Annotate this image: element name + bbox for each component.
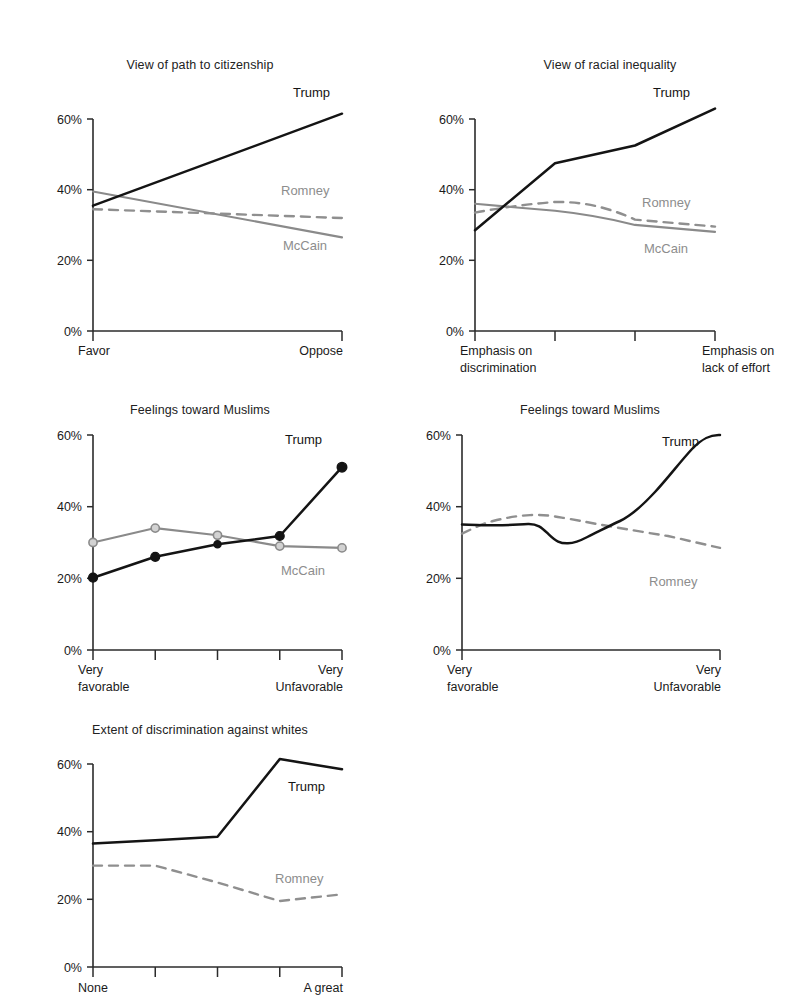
x-tick-label-left-line2: favorable (78, 680, 129, 694)
y-tick-label-60: 60% (439, 113, 464, 127)
series-label-romney: Romney (642, 195, 691, 210)
y-tick-label-40: 40% (57, 825, 82, 839)
chart-panel-view-of-path-to-citizenship: View of path to citizenship 60% 40% 20% … (0, 0, 400, 395)
series-label-trump: Trump (293, 85, 330, 100)
series-line-trump (93, 759, 342, 844)
series-label-mccain: McCain (283, 238, 327, 253)
y-tick-label-0: 0% (433, 644, 451, 658)
y-tick-label-40: 40% (439, 183, 464, 197)
data-point-trump-2 (151, 552, 160, 561)
chart-svg-muslims-smooth: 60% 40% 20% 0% Very favorable Very Unfav… (400, 400, 787, 690)
x-tick-label-left-line1: Very (447, 663, 473, 677)
y-tick-label-20: 20% (57, 572, 82, 586)
y-tick-label-60: 60% (57, 113, 82, 127)
data-point-mccain-4 (276, 542, 284, 550)
data-point-trump-4 (275, 532, 284, 541)
x-tick-label-right-line2: lack of effort (702, 361, 770, 375)
chart-panel-feelings-toward-muslims-markers: Feelings toward Muslims 60% 40% 20% 0% V… (0, 395, 400, 695)
chart-panel-extent-of-discrimination-against-whites: Extent of discrimination against whites … (0, 695, 400, 1002)
series-label-romney: Romney (275, 871, 324, 886)
x-tick-label-right-line1: Very (318, 663, 344, 677)
x-tick-label-left-line1: Emphasis on (460, 344, 532, 358)
x-tick-label-right-line1: Very (696, 663, 722, 677)
x-tick-label-right-line1: Emphasis on (702, 344, 774, 358)
x-tick-label-left-line2: discrimination (460, 361, 536, 375)
y-tick-label-0: 0% (446, 325, 464, 339)
y-tick-label-60: 60% (57, 429, 82, 443)
series-line-romney (462, 515, 720, 548)
y-tick-label-0: 0% (64, 644, 82, 658)
chart-svg-citizenship: 60% 40% 20% 0% Favor Oppose Trump Romney… (0, 55, 400, 385)
y-tick-label-20: 20% (439, 254, 464, 268)
y-tick-label-60: 60% (57, 758, 82, 772)
data-point-mccain-3 (213, 531, 221, 539)
series-line-mccain (93, 192, 342, 238)
series-label-romney: Romney (281, 183, 330, 198)
series-line-trump (462, 435, 720, 543)
chart-svg-racial-inequality: 60% 40% 20% 0% Emphasis on discriminatio… (400, 55, 787, 395)
data-point-trump-5 (337, 462, 347, 472)
y-tick-label-40: 40% (57, 500, 82, 514)
y-tick-label-20: 20% (57, 254, 82, 268)
data-point-mccain-2 (151, 524, 159, 532)
chart-panel-view-of-racial-inequality: View of racial inequality 60% 40% 20% 0%… (400, 0, 787, 395)
x-tick-label-right: A great (303, 981, 343, 995)
y-tick-label-20: 20% (57, 893, 82, 907)
chart-svg-muslims-markers: 60% 40% 20% 0% Very favorable Very Unfav… (0, 400, 400, 690)
x-tick-label-right-line2: Unfavorable (654, 680, 721, 694)
chart-panel-feelings-toward-muslims-smooth: Feelings toward Muslims 60% 40% 20% 0% V… (400, 395, 787, 695)
series-label-mccain: McCain (644, 241, 688, 256)
x-tick-label-left: None (78, 981, 108, 995)
chart-svg-discrimination-whites: 60% 40% 20% 0% None A great Trump Romney (0, 720, 400, 1002)
series-label-romney: Romney (649, 574, 698, 589)
series-line-trump (93, 467, 342, 578)
series-label-trump: Trump (288, 779, 325, 794)
series-label-trump: Trump (662, 434, 699, 449)
series-label-mccain: McCain (281, 563, 325, 578)
data-point-trump-3 (214, 541, 221, 548)
x-tick-label-left-line1: Very (78, 663, 104, 677)
x-tick-label-left-line2: favorable (447, 680, 498, 694)
series-line-trump (475, 109, 715, 231)
series-label-trump: Trump (653, 85, 690, 100)
data-point-trump-1 (89, 573, 98, 582)
x-tick-label-right-line2: Unfavorable (276, 680, 343, 694)
y-tick-label-0: 0% (64, 961, 82, 975)
data-point-mccain-1 (89, 538, 97, 546)
x-tick-label-favor: Favor (78, 344, 110, 358)
y-tick-label-60: 60% (426, 429, 451, 443)
y-tick-label-20: 20% (426, 572, 451, 586)
x-tick-label-oppose: Oppose (299, 344, 343, 358)
data-point-mccain-5 (338, 544, 346, 552)
series-label-trump: Trump (285, 432, 322, 447)
y-tick-label-40: 40% (57, 183, 82, 197)
y-tick-label-40: 40% (426, 500, 451, 514)
y-tick-label-0: 0% (64, 325, 82, 339)
